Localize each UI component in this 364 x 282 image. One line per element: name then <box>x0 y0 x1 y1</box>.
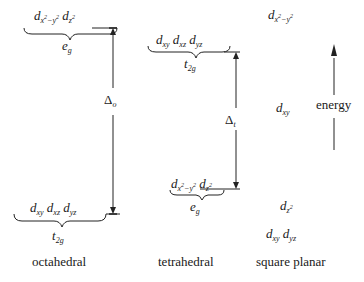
caption-square-planar: square planar <box>256 254 326 270</box>
oct-eg-label: eg <box>62 38 72 55</box>
delta-o-label: Δo <box>104 92 116 109</box>
tet-eg-label: eg <box>190 199 200 216</box>
oct-t2g-label: t2g <box>52 228 64 245</box>
sq-dxy: dxy <box>276 100 290 117</box>
sq-dx2y2: dx2−y2 <box>268 7 293 24</box>
caption-octahedral: octahedral <box>32 254 86 270</box>
tet-t2g-orbitals: dxy dxz dyz <box>156 32 202 49</box>
oct-eg-orbitals: dx2−y2 dz2 <box>34 8 75 25</box>
sq-dxy-dyz: dxy dyz <box>266 226 296 243</box>
delta-t-label: Δt <box>225 112 236 129</box>
oct-t2g-orbitals: dxy dxz dyz <box>30 200 76 217</box>
tet-eg-orbitals: dx2−y2 dz2 <box>171 176 212 193</box>
caption-tetrahedral: tetrahedral <box>158 254 214 270</box>
tet-t2g-label: t2g <box>184 56 196 73</box>
energy-axis-label: energy <box>316 97 351 113</box>
sq-dz2: dz2 <box>280 198 293 215</box>
